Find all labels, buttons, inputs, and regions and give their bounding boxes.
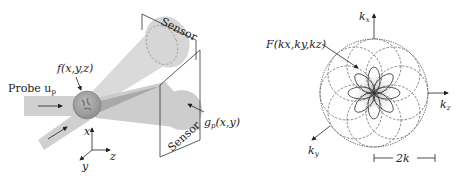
ky-axis-arrow — [312, 126, 330, 140]
kz-label: kz — [440, 98, 451, 112]
axis-z-label: z — [109, 150, 116, 163]
spectrum-label: F(kx,ky,kz) — [265, 38, 326, 51]
measurement-label: gp(x,y) — [204, 116, 240, 130]
kx-label: kx — [359, 10, 370, 24]
left-panel: Sensor Sensor Probe up f(x,y,z) gp(x,y) … — [8, 10, 240, 173]
spectrum-pointer-arrow — [322, 44, 358, 68]
sample-sphere[interactable] — [73, 91, 101, 119]
axis-x-label: x — [84, 125, 91, 138]
ky-label: ky — [308, 144, 320, 158]
object-pointer-arrow — [76, 77, 81, 90]
scale-label: 2k — [395, 152, 410, 165]
right-panel: kx kz ky F(kx,ky,kz) 2k — [265, 10, 451, 165]
object-label: f(x,y,z) — [56, 62, 93, 75]
figure-canvas: Sensor Sensor Probe up f(x,y,z) gp(x,y) … — [0, 0, 460, 178]
probe-label: Probe up — [8, 82, 56, 96]
coordinate-axes: x z y — [80, 125, 116, 173]
axis-y-label: y — [81, 160, 89, 173]
